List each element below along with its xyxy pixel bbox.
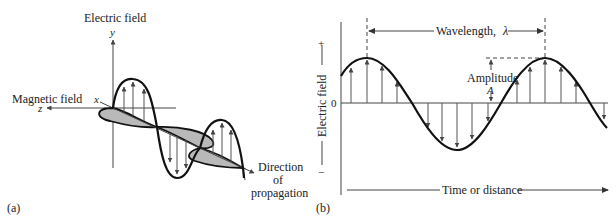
b-y-axis-label: Electric field [315,75,329,137]
b-zero-label: 0 [331,97,337,109]
wavelength-text: Wavelength, [436,24,496,38]
time-axis-label: Time or distance [442,183,522,197]
panel-b-label: (b) [316,201,330,215]
magnetic-lobe-2 [157,127,213,148]
z-axis-letter: z [37,102,43,114]
panel-b: 0 Electric field + − Wavelength, λ Ampli… [315,18,608,215]
x-axis-letter: x [93,93,99,105]
propagation-axis [113,108,254,173]
b-y-axis-label-group: Electric field [315,45,329,165]
amplitude-symbol: A [486,84,494,96]
b-minus-sign: − [318,166,324,178]
b-plus-sign: + [318,37,324,49]
panel-a: Electric field y Magnetic field z x [7,11,308,215]
em-wave-figure: Electric field y Magnetic field z x [0,0,616,224]
y-axis-letter: y [109,26,115,38]
electric-field-label: Electric field [84,11,146,25]
panel-a-label: (a) [7,201,20,215]
x-axis [100,102,113,108]
amplitude-label: Amplitude [467,71,518,85]
direction-label-3: propagation [251,186,308,200]
magnetic-field-label: Magnetic field [12,92,82,106]
direction-label-2: of [273,173,283,187]
direction-label-1: Direction [258,160,303,174]
wavelength-label: Wavelength, λ [436,24,508,38]
wavelength-symbol: λ [502,24,508,38]
